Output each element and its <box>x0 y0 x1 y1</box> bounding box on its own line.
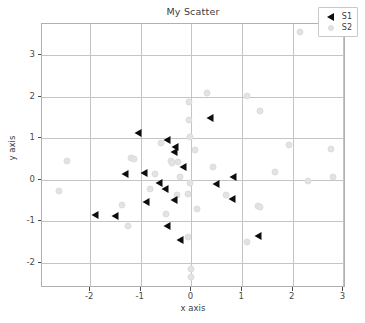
data-point-s2 <box>210 164 217 171</box>
data-point-s2 <box>119 201 126 208</box>
data-point-s1 <box>177 236 184 244</box>
data-point-s2 <box>187 179 194 186</box>
x-tick-label: -1 <box>136 291 144 301</box>
data-point-s2 <box>187 133 194 140</box>
x-axis-label: x axis <box>41 303 345 313</box>
legend: S1 S2 <box>318 7 358 37</box>
legend-label-s2: S2 <box>339 23 352 32</box>
x-tick-mark <box>241 287 242 291</box>
data-point-s1 <box>134 129 141 137</box>
data-point-s2 <box>186 98 193 105</box>
data-point-s2 <box>327 145 334 152</box>
data-point-s2 <box>286 141 293 148</box>
data-point-s2 <box>185 117 192 124</box>
data-point-s1 <box>229 195 236 203</box>
data-point-s1 <box>91 211 98 219</box>
data-point-s1 <box>164 136 171 144</box>
data-point-s1 <box>171 196 178 204</box>
data-point-s2 <box>185 233 192 240</box>
gridline-vertical <box>191 24 192 286</box>
data-point-s2 <box>192 146 199 153</box>
y-tick-label: -2 <box>11 257 35 267</box>
gridline-vertical <box>343 24 344 286</box>
data-point-s2 <box>55 188 62 195</box>
data-point-s2 <box>244 92 251 99</box>
data-point-s1 <box>254 232 261 240</box>
data-point-s1 <box>207 114 214 122</box>
data-point-s1 <box>230 173 237 181</box>
y-tick-mark <box>38 96 42 97</box>
chart-title: My Scatter <box>41 6 345 17</box>
data-point-s2 <box>194 206 201 213</box>
data-point-s2 <box>330 174 337 181</box>
y-tick-mark <box>38 262 42 263</box>
scatter-figure: My Scatter -2-101233210-1-2 x axis y axi… <box>0 0 365 323</box>
data-point-s2 <box>131 156 138 163</box>
data-point-s1 <box>143 198 150 206</box>
data-point-s2 <box>188 266 195 273</box>
x-tick-mark <box>140 287 141 291</box>
y-tick-mark <box>38 220 42 221</box>
data-point-s2 <box>162 210 169 217</box>
data-point-s2 <box>177 173 184 180</box>
gridline-vertical <box>293 24 294 286</box>
gridline-vertical <box>90 24 91 286</box>
gridline-horizontal <box>42 263 344 264</box>
circle-icon <box>323 25 339 31</box>
y-tick-mark <box>38 54 42 55</box>
x-tick-label: 3 <box>340 291 345 301</box>
data-point-s2 <box>152 171 159 178</box>
x-tick-label: 2 <box>289 291 294 301</box>
x-tick-mark <box>342 287 343 291</box>
data-point-s1 <box>163 222 170 230</box>
y-tick-label: 2 <box>11 91 35 101</box>
y-tick-mark <box>38 179 42 180</box>
data-point-s1 <box>141 169 148 177</box>
data-point-s1 <box>162 185 169 193</box>
gridline-horizontal <box>42 55 344 56</box>
data-point-s2 <box>125 223 132 230</box>
gridline-horizontal <box>42 97 344 98</box>
plot-area <box>41 23 345 287</box>
data-point-s2 <box>63 158 70 165</box>
data-point-s2 <box>271 169 278 176</box>
data-point-s2 <box>188 273 195 280</box>
data-point-s1 <box>121 170 128 178</box>
x-tick-mark <box>89 287 90 291</box>
data-point-s2 <box>257 203 264 210</box>
left-triangle-icon <box>323 13 339 21</box>
x-tick-label: -2 <box>85 291 93 301</box>
y-axis-label: y axis <box>7 118 17 178</box>
y-tick-label: -1 <box>11 215 35 225</box>
x-tick-mark <box>292 287 293 291</box>
data-point-s2 <box>305 178 312 185</box>
y-tick-mark <box>38 137 42 138</box>
legend-item-s1: S1 <box>323 11 352 22</box>
data-point-s2 <box>257 107 264 114</box>
x-tick-label: 1 <box>238 291 243 301</box>
data-point-s1 <box>180 163 187 171</box>
data-point-s2 <box>203 89 210 96</box>
x-tick-label: 0 <box>188 291 193 301</box>
data-point-s1 <box>213 180 220 188</box>
gridline-vertical <box>141 24 142 286</box>
legend-label-s1: S1 <box>339 12 352 21</box>
data-point-s2 <box>184 191 191 198</box>
y-tick-label: 3 <box>11 49 35 59</box>
data-point-s1 <box>112 212 119 220</box>
data-point-s1 <box>170 148 177 156</box>
gridline-horizontal <box>42 221 344 222</box>
legend-item-s2: S2 <box>323 22 352 33</box>
gridline-vertical <box>242 24 243 286</box>
data-point-s2 <box>146 186 153 193</box>
data-point-s2 <box>244 239 251 246</box>
data-point-s2 <box>296 28 303 35</box>
x-tick-mark <box>190 287 191 291</box>
